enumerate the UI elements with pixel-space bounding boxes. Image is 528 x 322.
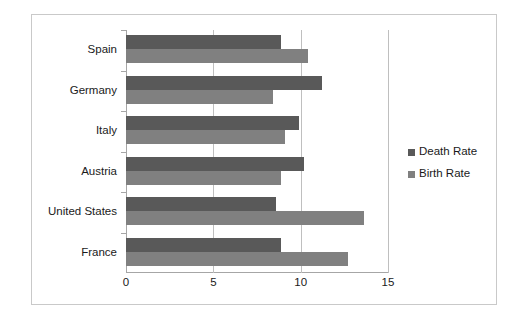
plot-area: FranceUnited StatesAustriaItalyGermanySp… xyxy=(126,30,388,273)
bar-birth-rate xyxy=(126,171,281,185)
bar-death-rate xyxy=(126,116,299,130)
bar-death-rate xyxy=(126,238,281,252)
chart-legend: Death Rate Birth Rate xyxy=(408,141,494,185)
x-axis-tick-label: 15 xyxy=(382,277,395,289)
category-label: France xyxy=(81,247,117,259)
y-axis-tick xyxy=(121,233,126,234)
bar-birth-rate xyxy=(126,130,285,144)
bar-death-rate xyxy=(126,197,276,211)
legend-swatch-birth-rate-icon xyxy=(408,171,415,178)
y-axis-tick xyxy=(121,111,126,112)
x-axis-tick-label: 5 xyxy=(210,277,216,289)
y-axis-tick xyxy=(121,192,126,193)
y-axis-tick xyxy=(121,71,126,72)
bar-death-rate xyxy=(126,35,281,49)
chart-frame: FranceUnited StatesAustriaItalyGermanySp… xyxy=(31,14,497,305)
legend-label-death-rate: Death Rate xyxy=(419,146,477,158)
category-label: Italy xyxy=(96,125,117,137)
x-axis-tick-label: 0 xyxy=(123,277,129,289)
category-label: Germany xyxy=(70,85,117,97)
gridline xyxy=(388,30,389,273)
category-label: Austria xyxy=(81,166,117,178)
category-label: United States xyxy=(48,206,117,218)
category-band: Austria xyxy=(126,152,388,193)
x-axis-tick-labels: 051015 xyxy=(126,277,388,295)
chart-screenshot: FranceUnited StatesAustriaItalyGermanySp… xyxy=(0,0,528,322)
legend-item-birth-rate: Birth Rate xyxy=(408,163,494,185)
bar-birth-rate xyxy=(126,49,308,63)
category-band: Italy xyxy=(126,111,388,152)
bar-birth-rate xyxy=(126,211,364,225)
bar-birth-rate xyxy=(126,90,273,104)
bar-birth-rate xyxy=(126,252,348,266)
y-axis-tick xyxy=(121,30,126,31)
category-band: Spain xyxy=(126,30,388,71)
category-band: United States xyxy=(126,192,388,233)
legend-label-birth-rate: Birth Rate xyxy=(419,168,470,180)
y-axis-tick xyxy=(121,152,126,153)
category-label: Spain xyxy=(88,44,117,56)
category-band: Germany xyxy=(126,71,388,112)
legend-item-death-rate: Death Rate xyxy=(408,141,494,163)
x-axis-tick-label: 10 xyxy=(294,277,307,289)
bar-death-rate xyxy=(126,76,322,90)
legend-swatch-death-rate-icon xyxy=(408,149,415,156)
category-band: France xyxy=(126,233,388,274)
bar-death-rate xyxy=(126,157,304,171)
